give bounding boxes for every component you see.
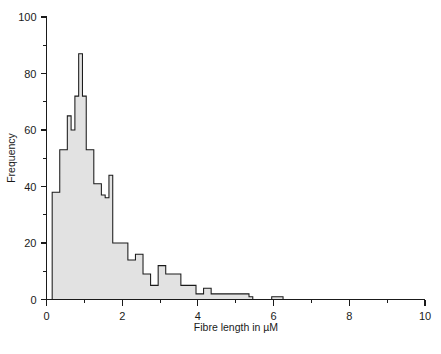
histogram-figure: 020406080100 Frequency 0246810 Fibre len…	[0, 0, 441, 354]
y-tick-label: 0	[30, 294, 36, 306]
x-tick-label: 0	[43, 310, 49, 322]
fibre-length-histogram: 020406080100 Frequency 0246810 Fibre len…	[0, 0, 441, 354]
y-tick-label: 80	[24, 68, 36, 80]
x-tick-label: 4	[195, 310, 201, 322]
x-axis-title: Fibre length in µM	[194, 321, 278, 333]
y-tick-label: 20	[24, 237, 36, 249]
x-tick-label: 2	[119, 310, 125, 322]
y-tick-label: 100	[18, 11, 36, 23]
y-tick-label: 40	[24, 181, 36, 193]
x-tick-label: 10	[419, 310, 431, 322]
x-tick-label: 6	[271, 310, 277, 322]
y-tick-label: 60	[24, 124, 36, 136]
y-axis-title: Frequency	[5, 132, 17, 182]
x-tick-label: 8	[346, 310, 352, 322]
